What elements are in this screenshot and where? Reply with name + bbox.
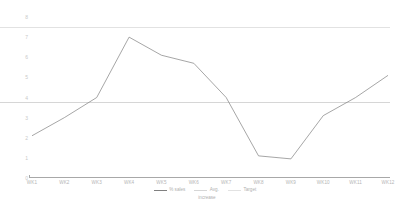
x-axis-tick-label: WK9 — [286, 181, 296, 186]
legend-item[interactable]: Target — [228, 188, 256, 193]
legend-swatch-icon — [228, 190, 241, 191]
x-axis-tick-label: WK11 — [349, 181, 362, 186]
legend-swatch-icon — [154, 190, 167, 191]
chart-legend: % salesAvg.Target increase — [0, 188, 410, 201]
legend-label-wrapped: increase — [198, 196, 215, 201]
y-axis-tick-label: 8 — [25, 15, 28, 20]
y-axis-tick-label: 5 — [25, 75, 28, 80]
y-axis-tick-label: 3 — [25, 115, 28, 120]
x-axis-tick-label: WK10 — [317, 181, 330, 186]
x-axis-tick-label: WK5 — [156, 181, 166, 186]
x-axis-tick-label: WK7 — [221, 181, 231, 186]
x-axis-tick-label: WK3 — [92, 181, 102, 186]
y-axis-tick-label: 6 — [25, 55, 28, 60]
x-axis-tick-label: WK12 — [382, 181, 395, 186]
legend-item[interactable]: % sales — [154, 188, 186, 193]
x-axis-tick-label: WK1 — [27, 181, 37, 186]
plot-area: 876543210 WK1WK2WK3WK4WK5WK6WK7WK8WK9WK1… — [32, 17, 388, 178]
legend-item[interactable]: Avg. — [194, 188, 219, 193]
y-axis-tick-label: 2 — [25, 135, 28, 140]
legend-item-label: % sales — [169, 188, 185, 193]
y-axis-tick-label: 7 — [25, 35, 28, 40]
y-axis-tick-label: 4 — [25, 95, 28, 100]
legend-item-label: Target — [243, 188, 256, 193]
x-axis-tick-label: WK2 — [59, 181, 69, 186]
legend-item-label: Avg. — [210, 188, 219, 193]
x-axis-tick-label: WK6 — [189, 181, 199, 186]
x-axis-tick-label: WK4 — [124, 181, 134, 186]
legend-swatch-icon — [194, 190, 207, 191]
x-axis-tick-label: WK8 — [253, 181, 263, 186]
legend-row: % salesAvg.Target — [154, 188, 256, 193]
series-line-sales-increase — [32, 17, 388, 178]
y-axis-tick-label: 1 — [25, 155, 28, 160]
x-axis-line — [29, 177, 390, 178]
y-axis-origin-tick — [29, 175, 30, 178]
chart-container: 876543210 WK1WK2WK3WK4WK5WK6WK7WK8WK9WK1… — [0, 0, 410, 219]
